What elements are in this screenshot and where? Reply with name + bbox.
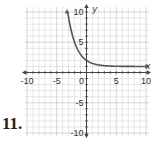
svg-text:-10: -10 (20, 76, 33, 86)
svg-text:-5: -5 (75, 98, 83, 108)
svg-text:-5: -5 (53, 76, 61, 86)
svg-text:5: 5 (78, 37, 83, 47)
svg-text:10: 10 (141, 76, 151, 86)
svg-text:y: y (92, 4, 98, 14)
svg-text:5: 5 (114, 76, 119, 86)
svg-text:-10: -10 (70, 128, 83, 138)
svg-text:0: 0 (79, 76, 84, 86)
svg-text:10: 10 (73, 7, 83, 17)
exponential-graph: -10-50510105-5-10xy (0, 0, 153, 142)
